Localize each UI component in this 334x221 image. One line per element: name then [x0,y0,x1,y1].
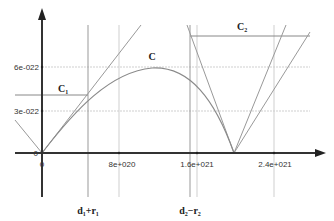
y-tick-label-6e-022: 6e-022 [14,63,39,72]
diagram-canvas: 6e-022 3e-022 0 0 8e+020 1.6e+021 2.4e+0… [0,0,334,221]
y-tick-label-3e-022: 3e-022 [14,107,39,116]
curve-c [42,68,234,153]
x-axis-arrow-icon [315,149,326,157]
x-tick-label-1.6e+021: 1.6e+021 [180,160,214,169]
x-tick-label-8e+020: 8e+020 [109,160,136,169]
tick-2.4e+021 [273,152,275,154]
tick-3e-022 [41,110,43,112]
tick-8e+020 [118,152,120,154]
label-c2: C2 [237,21,247,33]
y-axis-arrow-icon [38,8,46,20]
label-c: C [148,51,155,62]
c2-outer-line [234,32,310,153]
y-tick-label-0: 0 [34,149,39,158]
tick-6e-022 [41,66,43,68]
x-tick-label-2.4e+021: 2.4e+021 [258,160,292,169]
tick-1.6e+021 [196,152,198,154]
label-c1: C1 [58,83,68,95]
x-tick-label-0: 0 [40,160,45,169]
label-d2-minus-r2: d2−r2 [179,205,201,217]
c2-right-line [234,25,286,153]
label-d1-plus-r1: d1+r1 [77,205,99,217]
diagram: 6e-022 3e-022 0 0 8e+020 1.6e+021 2.4e+0… [0,0,334,221]
